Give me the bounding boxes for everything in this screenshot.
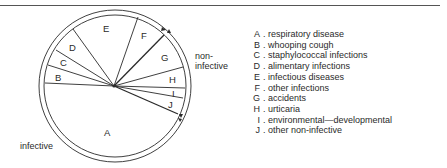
legend-item: H. urticaria <box>250 104 392 115</box>
legend-item: C. staphylococcal infections <box>250 50 392 61</box>
segment-label-G: G <box>161 52 168 63</box>
legend: A. respiratory disease B. whooping cough… <box>250 29 392 136</box>
non-infective-label: non- infective <box>195 51 228 71</box>
segment-label-J: J <box>168 99 173 110</box>
segment-label-A: A <box>104 127 111 138</box>
legend-text: infectious diseases <box>268 72 344 83</box>
legend-text: respiratory disease <box>268 29 344 40</box>
legend-text: other infections <box>268 83 329 94</box>
legend-item: D. alimentary infections <box>250 61 392 72</box>
arrow-bottom-infective-icon <box>178 118 182 122</box>
segment-label-C: C <box>60 57 67 68</box>
legend-key: B <box>250 40 260 51</box>
legend-key: F <box>250 83 260 94</box>
legend-key: I <box>250 115 260 126</box>
legend-item: G. accidents <box>250 93 392 104</box>
legend-item: A. respiratory disease <box>250 29 392 40</box>
legend-text: whooping cough <box>268 40 334 51</box>
legend-key: G <box>250 93 260 104</box>
non-infective-label-line2: infective <box>195 61 228 71</box>
segment-label-E: E <box>103 23 109 34</box>
segment-label-F: F <box>141 30 147 41</box>
legend-text: accidents <box>268 93 306 104</box>
legend-text: other non-infective <box>268 125 342 136</box>
segment-label-D: D <box>69 42 76 53</box>
hub-dot <box>112 84 115 87</box>
segment-label-I: I <box>172 88 175 99</box>
legend-key: H <box>250 104 260 115</box>
legend-key: D <box>250 61 260 72</box>
non-infective-label-line1: non- <box>195 51 228 61</box>
legend-item: J. other non-infective <box>250 125 392 136</box>
legend-text: staphylococcal infections <box>268 50 368 61</box>
infective-label: infective <box>20 141 53 151</box>
legend-item: F. other infections <box>250 83 392 94</box>
legend-item: B. whooping cough <box>250 40 392 51</box>
legend-item: I. environmental—developmental <box>250 115 392 126</box>
legend-key: J <box>250 125 260 136</box>
legend-key: E <box>250 72 260 83</box>
legend-item: E. infectious diseases <box>250 72 392 83</box>
segment-label-H: H <box>169 74 176 85</box>
legend-key: C <box>250 50 260 61</box>
legend-text: urticaria <box>268 104 300 115</box>
legend-text: environmental—developmental <box>268 115 392 126</box>
legend-text: alimentary infections <box>268 61 350 72</box>
segment-label-B: B <box>55 72 61 83</box>
legend-key: A <box>250 29 260 40</box>
